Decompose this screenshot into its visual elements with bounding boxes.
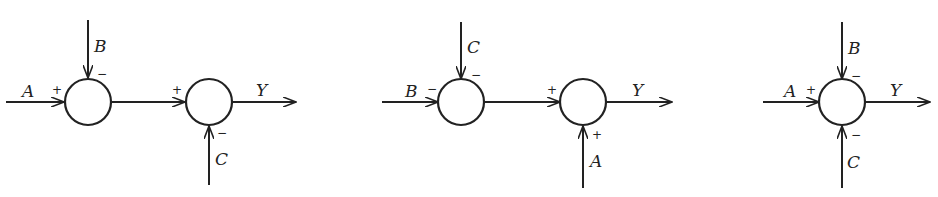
sign-top: − [471, 68, 481, 82]
sign-top: − [97, 67, 107, 81]
sign-bottom: − [217, 126, 227, 140]
input-label-top: B [847, 38, 861, 58]
diagram-b: B − C − + A + Y [382, 22, 672, 188]
input-label-bottom: A [588, 151, 602, 171]
input-label-top: B [93, 36, 107, 56]
sign-left: + [52, 83, 62, 97]
summing-junction-1 [65, 79, 111, 125]
input-label-left: A [20, 81, 34, 101]
diagram-c: A + B − C − Y [763, 22, 930, 188]
output-label: Y [256, 80, 269, 100]
input-label-left: B [404, 81, 418, 101]
output-label: Y [890, 80, 903, 100]
sign-left-2: + [547, 83, 557, 97]
summing-junction-2 [186, 79, 232, 125]
summing-junction [819, 79, 865, 125]
sign-bottom: + [592, 128, 602, 142]
diagram-a: A + B − + C − Y [6, 20, 296, 185]
input-label-bottom: C [847, 152, 860, 172]
input-label-top: C [467, 37, 480, 57]
sign-bottom: − [851, 128, 861, 142]
input-label-left: A [782, 81, 796, 101]
sign-left-2: + [172, 83, 182, 97]
sign-left: + [806, 83, 816, 97]
summing-junction-2 [560, 79, 606, 125]
sign-left: − [427, 82, 437, 96]
block-diagrams: A + B − + C − Y B − C − + A + Y A + [0, 0, 938, 197]
summing-junction-1 [438, 79, 484, 125]
output-label: Y [632, 80, 645, 100]
input-label-bottom: C [215, 149, 228, 169]
